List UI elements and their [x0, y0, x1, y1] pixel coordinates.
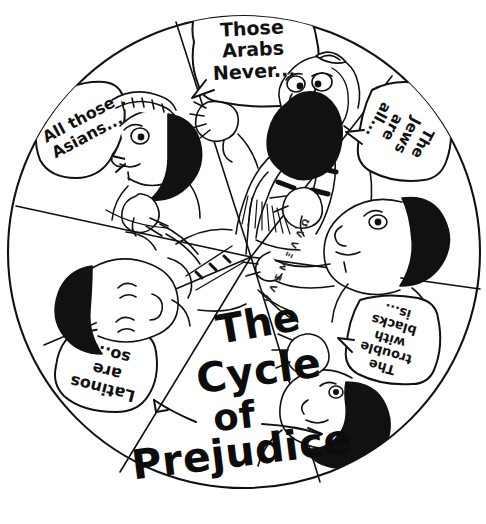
- cartoon-canvas: Those Arabs Never... The Jews are all...…: [0, 0, 486, 524]
- speech-bubble-blacks: [346, 295, 441, 384]
